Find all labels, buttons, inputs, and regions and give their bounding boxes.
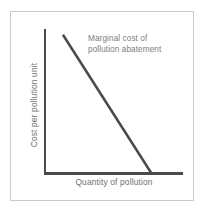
y-axis-line <box>44 29 46 175</box>
marginal-cost-curve-label: Marginal cost of pollution abatement <box>88 33 192 55</box>
figure-container: Marginal cost of pollution abatement Qua… <box>0 0 206 212</box>
annotation-line-1: Marginal cost of <box>88 33 192 44</box>
x-axis-title: Quantity of pollution <box>45 177 183 187</box>
annotation-line-2: pollution abatement <box>88 44 192 55</box>
plot-area: Marginal cost of pollution abatement Qua… <box>0 0 206 212</box>
y-axis-title-wrapper: Cost per pollution unit <box>29 30 41 180</box>
marginal-cost-curve <box>63 35 151 173</box>
y-axis-title: Cost per pollution unit <box>29 30 39 180</box>
x-axis-line <box>44 172 183 175</box>
